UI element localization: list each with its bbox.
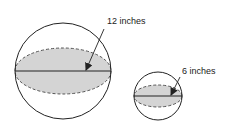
large-radius-label: 12 inches (107, 16, 146, 26)
small-sphere: 6 inches (134, 66, 216, 120)
small-radius-label: 6 inches (182, 66, 216, 76)
spheres-diagram: 12 inches 6 inches (0, 0, 227, 130)
large-sphere: 12 inches (15, 16, 146, 119)
